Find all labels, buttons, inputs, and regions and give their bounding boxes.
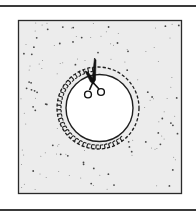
cutting-diagram [0,0,196,214]
circle-shape [66,75,133,142]
